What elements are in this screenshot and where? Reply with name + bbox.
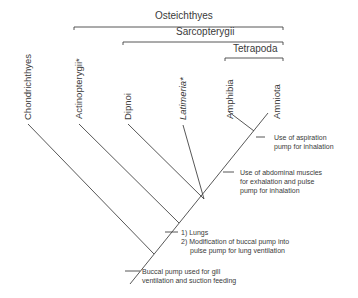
character-buccal: Buccal pump used for gill ventilation an… bbox=[142, 267, 236, 285]
branch-dipnoi bbox=[128, 124, 204, 199]
note-line: 1) Lungs bbox=[181, 228, 289, 237]
note-line: pump for inhalation bbox=[240, 186, 322, 195]
note-line: for exhalation and pulse bbox=[240, 177, 322, 186]
note-line: Use of aspiration bbox=[274, 133, 334, 142]
taxon-label-amniota: Amniota bbox=[272, 84, 282, 119]
taxon-label-actinopterygii: Actinopterygii* bbox=[74, 58, 84, 119]
taxon-label-amphibia: Amphibia bbox=[225, 79, 235, 119]
taxon-label-chondrichthyes: Chondrichthyes bbox=[23, 54, 33, 120]
branch-latimeria bbox=[183, 125, 204, 199]
character-lungs: 1) Lungs 2) Modification of buccal pump … bbox=[181, 228, 289, 255]
taxon-label-latimeria: Latimeria* bbox=[178, 77, 188, 120]
note-line: Buccal pump used for gill bbox=[142, 267, 236, 276]
group-label-sarcopterygii: Sarcopterygii bbox=[176, 27, 234, 37]
note-line: pump for inhalation bbox=[274, 142, 334, 151]
note-line: pulse pump for lung ventilation bbox=[181, 246, 289, 255]
character-abdominal: Use of abdominal muscles for exhalation … bbox=[240, 168, 322, 195]
branch-chondrichthyes bbox=[28, 124, 154, 254]
note-line: ventilation and suction feeding bbox=[142, 276, 236, 285]
group-label-osteichthyes: Osteichthyes bbox=[155, 11, 213, 21]
taxon-label-dipnoi: Dipnoi bbox=[123, 93, 133, 120]
main-trunk bbox=[130, 113, 268, 284]
tetrapoda-bracket bbox=[225, 58, 283, 61]
branch-actinopterygii bbox=[79, 124, 179, 223]
note-line: 2) Modification of buccal pump into bbox=[181, 237, 289, 246]
group-label-tetrapoda: Tetrapoda bbox=[233, 44, 277, 54]
note-line: Use of abdominal muscles bbox=[240, 168, 322, 177]
character-aspiration: Use of aspiration pump for inhalation bbox=[274, 133, 334, 151]
